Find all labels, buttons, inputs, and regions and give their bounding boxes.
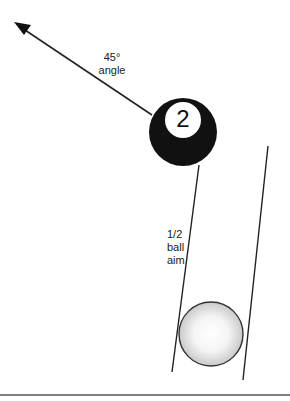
aim-label: 1/2 ball aim [167,228,185,267]
angle-label: 45° angle [92,51,132,77]
aim-label-line2: ball [167,241,185,254]
angle-label-line1: 45° [92,51,132,64]
aim-label-line3: aim [167,254,185,267]
diagram-canvas [0,0,290,401]
angle-label-line2: angle [92,64,132,77]
aim-label-line1: 1/2 [167,228,185,241]
aim-line-right [243,146,268,380]
ball-number: 2 [172,106,194,132]
cue-ball [179,302,243,366]
